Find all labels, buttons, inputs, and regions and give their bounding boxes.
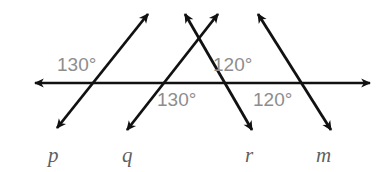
line-m	[258, 14, 331, 130]
line-label-q: q	[122, 145, 133, 166]
angle-label-lower-middle: 130°	[157, 90, 196, 109]
line-label-m: m	[316, 145, 331, 166]
angle-label-upper-right: 120°	[213, 55, 252, 74]
line-q	[127, 14, 218, 130]
line-label-p: p	[48, 145, 59, 166]
line-label-r: r	[245, 145, 253, 166]
geometry-diagram: 130° 130° 120° 120° p q r m	[0, 0, 392, 172]
angle-label-upper-left: 130°	[57, 55, 96, 74]
angle-label-lower-right: 120°	[253, 90, 292, 109]
